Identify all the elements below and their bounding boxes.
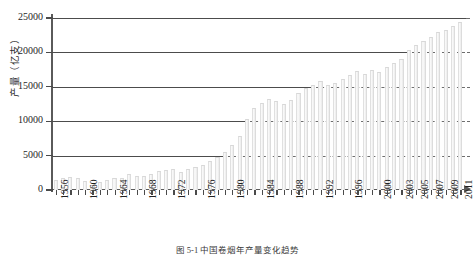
x-axis-tick xyxy=(225,190,226,195)
x-axis-tick xyxy=(335,190,336,195)
x-axis-tick xyxy=(446,190,447,195)
bar xyxy=(274,101,278,190)
bar xyxy=(252,108,256,190)
x-axis-tick xyxy=(181,190,182,195)
x-axis-tick xyxy=(254,190,255,195)
x-axis-tick xyxy=(151,190,152,195)
bar xyxy=(458,22,462,190)
y-axis-title: 产量（亿支） xyxy=(7,5,21,125)
bar xyxy=(429,37,433,190)
y-axis-tick-label: 10000 xyxy=(18,115,43,125)
bar xyxy=(282,104,286,190)
bar xyxy=(370,70,374,190)
x-axis-tick xyxy=(453,190,454,195)
x-axis-tick xyxy=(70,190,71,195)
x-axis-tick xyxy=(107,190,108,195)
bar xyxy=(193,167,197,190)
bar xyxy=(164,170,168,190)
x-axis-tick xyxy=(460,190,461,195)
x-axis-tick xyxy=(195,190,196,195)
y-axis-tick-label: 0 xyxy=(38,184,43,194)
x-axis-tick xyxy=(306,190,307,195)
x-axis-tick-label: 1984 xyxy=(266,179,276,199)
bar xyxy=(260,103,264,190)
x-axis-tick xyxy=(291,190,292,195)
x-axis-tick xyxy=(409,190,410,195)
x-axis-tick xyxy=(218,190,219,195)
x-axis-tick xyxy=(210,190,211,195)
x-axis-tick xyxy=(284,190,285,195)
x-axis-tick xyxy=(85,190,86,195)
bar xyxy=(83,181,87,190)
bar xyxy=(377,72,381,190)
x-axis-tick xyxy=(203,190,204,195)
x-axis-tick-label: 2009 xyxy=(450,179,460,199)
bar xyxy=(112,178,116,190)
x-axis-tick-label: 1992 xyxy=(325,179,335,199)
x-axis-tick-label: 2011 xyxy=(464,180,474,199)
y-axis-tick-label: 5000 xyxy=(23,150,43,160)
bar xyxy=(341,79,345,190)
bar-series xyxy=(52,18,470,190)
x-axis-tick xyxy=(276,190,277,195)
x-axis-tick xyxy=(328,190,329,195)
x-axis-tick xyxy=(188,190,189,195)
bar xyxy=(392,63,396,190)
x-axis-tick-label: 1996 xyxy=(354,179,364,199)
y-axis-tick-label: 25000 xyxy=(18,12,43,22)
bar xyxy=(54,180,58,190)
bar xyxy=(326,85,330,190)
bar xyxy=(76,178,80,190)
bar xyxy=(451,26,455,190)
x-axis-tick-label: 1968 xyxy=(148,179,158,199)
bar xyxy=(304,88,308,190)
bar xyxy=(333,83,337,190)
x-axis-tick xyxy=(438,190,439,195)
x-axis-tick xyxy=(365,190,366,195)
y-axis-tick-label: 15000 xyxy=(18,81,43,91)
bar xyxy=(105,180,109,190)
bar xyxy=(318,81,322,190)
x-axis-tick xyxy=(78,190,79,195)
figure-caption: 图 5-1 中国卷烟年产量变化趋势 xyxy=(0,243,475,255)
x-axis-tick xyxy=(63,190,64,195)
bar xyxy=(267,99,271,190)
bar xyxy=(385,67,389,190)
x-axis-tick xyxy=(343,190,344,195)
bar xyxy=(201,165,205,190)
x-axis-tick xyxy=(159,190,160,195)
x-axis-tick xyxy=(92,190,93,195)
x-axis-tick xyxy=(424,190,425,195)
x-axis-tick-label: 2005 xyxy=(420,179,430,199)
bar xyxy=(135,176,139,190)
bar xyxy=(414,45,418,190)
x-axis-tick xyxy=(232,190,233,195)
x-axis-tick xyxy=(269,190,270,195)
x-axis-tick-label: 1980 xyxy=(236,179,246,199)
bar xyxy=(444,30,448,190)
x-axis-tick-label: 1988 xyxy=(295,179,305,199)
x-axis-tick xyxy=(379,190,380,195)
x-axis-tick-label: 2007 xyxy=(435,179,445,199)
x-axis-tick xyxy=(100,190,101,195)
x-axis-tick xyxy=(247,190,248,195)
x-axis-tick xyxy=(122,190,123,195)
bar xyxy=(223,152,227,190)
x-axis-tick xyxy=(321,190,322,195)
x-axis-tick-label: 1956 xyxy=(60,179,70,199)
x-axis-tick xyxy=(394,190,395,195)
x-axis-tick-label: 2003 xyxy=(405,179,415,199)
x-axis-tick-label: 1976 xyxy=(207,179,217,199)
bar xyxy=(355,71,359,190)
bar xyxy=(399,59,403,190)
bar xyxy=(348,75,352,190)
x-axis-tick xyxy=(166,190,167,195)
plot-area xyxy=(52,18,470,190)
x-axis-tick-label: 1964 xyxy=(119,179,129,199)
x-axis-tick xyxy=(56,190,57,195)
x-axis-tick xyxy=(262,190,263,195)
x-axis-tick-label: 1972 xyxy=(177,179,187,199)
bar xyxy=(230,145,234,190)
x-axis-tick xyxy=(387,190,388,195)
x-axis-tick xyxy=(240,190,241,195)
